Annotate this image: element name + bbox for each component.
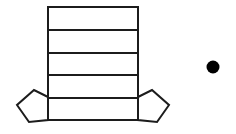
- shape-diagram: [0, 0, 236, 134]
- solid-dot-marker: [207, 61, 220, 74]
- right-pentagon-shape: [138, 90, 169, 122]
- left-pentagon-shape: [17, 90, 48, 122]
- ladder-rectangle-shape: [48, 7, 138, 120]
- diagram-canvas: [0, 0, 236, 134]
